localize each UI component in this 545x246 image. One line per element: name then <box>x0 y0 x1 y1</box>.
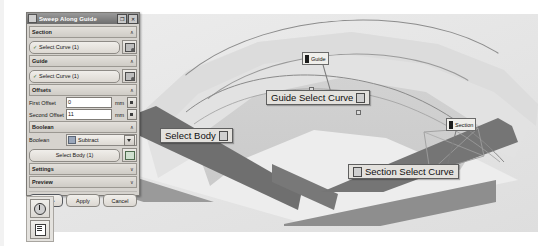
select-body-button[interactable]: Select Body (1) <box>29 149 120 162</box>
callout-select-body[interactable]: Select Body <box>160 128 233 143</box>
second-offset-input[interactable]: 11 <box>66 109 112 120</box>
callout-guide-select-curve[interactable]: Guide Select Curve <box>266 90 370 105</box>
group-header-preview[interactable]: Preview ∨ <box>29 176 137 188</box>
group-header-section[interactable]: Section ∧ <box>29 26 137 38</box>
spin-button-icon[interactable] <box>127 109 137 120</box>
drag-handle-icon[interactable] <box>356 93 365 103</box>
viewport-tag-section[interactable]: Section <box>446 118 476 131</box>
screenshot-root: Guide Section Guide Select Curve Select … <box>0 0 545 246</box>
group-header-settings[interactable]: Settings ∨ <box>29 163 137 175</box>
check-icon: ✓ <box>33 73 37 79</box>
viewport-tag-guide[interactable]: Guide <box>302 52 329 65</box>
boolean-combo-row: Boolean Subtract <box>29 134 137 146</box>
check-icon: ✓ <box>33 44 37 50</box>
curve-rule-icon[interactable] <box>122 40 137 54</box>
second-offset-label: Second Offset <box>29 112 65 118</box>
sweep-origin-point[interactable] <box>356 110 361 115</box>
group-header-settings-label: Settings <box>32 166 54 172</box>
chevron-up-icon[interactable]: ∧ <box>130 87 134 93</box>
viewport-tag-guide-label: Guide <box>311 56 326 62</box>
dialog-body: Section ∧ ✓ Select Curve (1) Guide ∧ ✓ S… <box>27 24 139 209</box>
chevron-down-icon[interactable] <box>124 135 135 146</box>
group-header-section-label: Section <box>32 29 52 35</box>
list-panel-icon[interactable] <box>30 220 50 239</box>
group-header-preview-label: Preview <box>32 179 53 185</box>
callout-section-label: Section Select Curve <box>365 166 454 177</box>
first-offset-input[interactable]: 0 <box>66 97 112 108</box>
tag-marker-icon <box>305 55 309 63</box>
boolean-field-label: Boolean <box>29 137 65 143</box>
drag-handle-icon[interactable] <box>353 167 362 177</box>
group-header-offsets[interactable]: Offsets ∧ <box>29 84 137 96</box>
restore-window-button[interactable]: ❐ <box>117 14 127 24</box>
curve-rule-icon[interactable] <box>122 69 137 83</box>
section-select-curve-label: Select Curve (1) <box>39 44 79 50</box>
chevron-up-icon[interactable]: ∧ <box>130 124 134 130</box>
section-select-curve-button[interactable]: ✓ Select Curve (1) <box>29 41 120 54</box>
first-offset-row: First Offset 0 mm <box>29 97 137 108</box>
select-body-label: Select Body (1) <box>56 152 94 158</box>
chevron-up-icon[interactable]: ∧ <box>130 58 134 64</box>
spin-button-icon[interactable] <box>127 97 137 108</box>
callout-section-select-curve[interactable]: Section Select Curve <box>348 164 459 179</box>
section-select-curve-row: ✓ Select Curve (1) <box>29 40 137 54</box>
group-header-boolean-label: Boolean <box>32 124 54 130</box>
close-window-button[interactable]: ✕ <box>128 14 138 24</box>
apply-button[interactable]: Apply <box>66 194 100 207</box>
group-header-guide-label: Guide <box>32 58 48 64</box>
body-rule-icon[interactable] <box>122 148 137 162</box>
second-offset-row: Second Offset 11 mm <box>29 109 137 120</box>
first-offset-label: First Offset <box>29 100 65 106</box>
sweep-along-guide-dialog[interactable]: Sweep Along Guide ❐ ✕ Section ∧ ✓ Select… <box>26 12 140 196</box>
group-header-boolean[interactable]: Boolean ∧ <box>29 121 137 133</box>
window-menu-icon[interactable] <box>28 14 37 23</box>
cancel-button[interactable]: Cancel <box>103 194 137 207</box>
chevron-down-icon[interactable]: ∨ <box>130 166 134 172</box>
boolean-operation-select[interactable]: Subtract <box>66 134 137 146</box>
viewport-tag-section-label: Section <box>455 122 473 128</box>
drag-handle-icon[interactable] <box>219 131 228 141</box>
group-header-guide[interactable]: Guide ∧ <box>29 55 137 67</box>
callout-body-label: Select Body <box>165 130 216 141</box>
history-dial-icon[interactable] <box>30 199 50 218</box>
select-body-row: Select Body (1) <box>29 148 137 162</box>
page-left-rule <box>0 0 4 246</box>
dialog-title-bar[interactable]: Sweep Along Guide ❐ ✕ <box>27 13 139 24</box>
boolean-selected-option: Subtract <box>78 137 124 143</box>
subtract-boolean-icon <box>68 136 76 144</box>
dialog-title: Sweep Along Guide <box>39 16 116 22</box>
guide-select-curve-row: ✓ Select Curve (1) <box>29 69 137 83</box>
second-offset-unit: mm <box>113 112 126 118</box>
tag-marker-icon <box>449 121 453 129</box>
guide-select-curve-label: Select Curve (1) <box>39 73 79 79</box>
guide-select-curve-button[interactable]: ✓ Select Curve (1) <box>29 70 120 83</box>
chevron-up-icon[interactable]: ∧ <box>130 29 134 35</box>
group-header-offsets-label: Offsets <box>32 87 51 93</box>
chevron-down-icon[interactable]: ∨ <box>130 179 134 185</box>
first-offset-unit: mm <box>113 100 126 106</box>
callout-guide-label: Guide Select Curve <box>271 92 353 103</box>
resource-bar[interactable] <box>26 196 54 242</box>
